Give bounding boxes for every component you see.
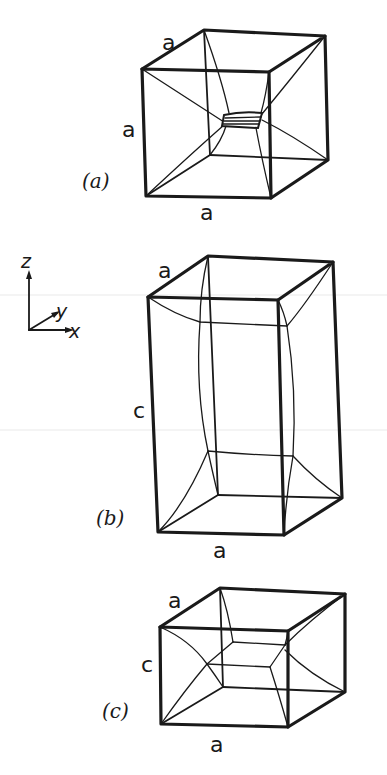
panel-c-label-bottom: a	[210, 732, 223, 757]
axis-x-label: x	[68, 320, 81, 342]
panel-b-label-side: c	[133, 398, 145, 423]
panel-b-prism	[148, 256, 342, 535]
panel-a-label-bottom: a	[200, 200, 213, 225]
panel-b-label-bottom: a	[213, 538, 226, 563]
panel-c-label-side: c	[141, 652, 153, 677]
panel-a-label-side: a	[122, 117, 135, 142]
panel-a-cube	[142, 30, 328, 198]
central-hatched-cell	[222, 112, 262, 128]
panel-c-prism	[160, 588, 345, 727]
panel-b-label-top: a	[158, 258, 171, 283]
figure-canvas: a a a (a) z y x a c a (b)	[0, 0, 387, 775]
panel-c-label-top: a	[168, 588, 181, 613]
panel-a-caption: (a)	[82, 169, 110, 193]
panel-b-caption: (b)	[96, 506, 124, 530]
axis-z-label: z	[20, 250, 32, 272]
panel-a-label-top: a	[162, 30, 175, 55]
axis-y-label: y	[55, 300, 68, 322]
panel-c-caption: (c)	[102, 699, 129, 723]
